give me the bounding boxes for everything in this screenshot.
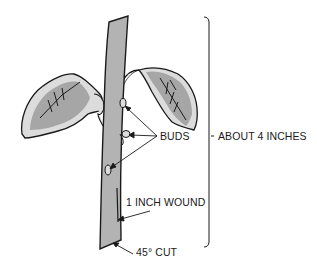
cut-arrow [113, 243, 133, 254]
cut-label: 45° CUT [136, 246, 177, 258]
left-leaf [22, 74, 104, 138]
bud-2 [122, 131, 130, 138]
length-label: ABOUT 4 INCHES [218, 130, 307, 142]
length-bracket [204, 17, 214, 247]
wound-arrow [118, 211, 150, 221]
wound-label: 1 INCH WOUND [126, 196, 205, 208]
right-leaf [117, 68, 197, 130]
buds-label: BUDS [160, 130, 190, 142]
bud-3 [105, 165, 111, 175]
